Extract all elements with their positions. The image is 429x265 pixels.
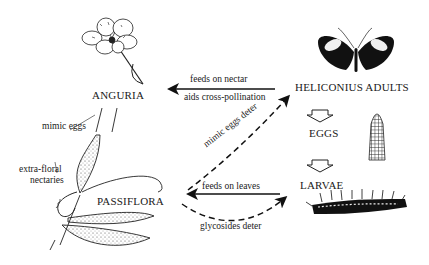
edge-label-feeds-on-leaves: feeds on leaves bbox=[202, 182, 260, 192]
caterpillar-illustration bbox=[306, 189, 407, 214]
annotation-nectaries: nectaries bbox=[30, 176, 64, 186]
annotation-mimic-eggs: mimic eggs bbox=[42, 122, 86, 132]
node-passiflora: PASSIFLORA bbox=[97, 196, 164, 207]
adult-to-eggs-arrow-icon bbox=[307, 110, 333, 122]
node-eggs: EGGS bbox=[309, 128, 339, 139]
heliconius-butterfly-illustration bbox=[318, 28, 394, 72]
edge-label-glycosides-deter: glycosides deter bbox=[200, 222, 261, 232]
lifecycle-arrows bbox=[307, 110, 333, 172]
eggs-to-larvae-arrow-icon bbox=[307, 160, 333, 172]
edge-label-feeds-on-nectar: feeds on nectar bbox=[190, 75, 248, 85]
node-heliconius-adults: HELICONIUS ADULTS bbox=[295, 82, 409, 93]
node-anguria: ANGURIA bbox=[92, 90, 144, 101]
glycosides-deter-arrow bbox=[182, 198, 285, 221]
anguria-flower-illustration bbox=[82, 18, 143, 84]
interaction-arrows bbox=[170, 89, 288, 221]
node-larvae: LARVAE bbox=[300, 180, 344, 191]
annotation-extra-floral: extra-floral bbox=[19, 165, 62, 175]
egg-illustration bbox=[369, 114, 385, 160]
